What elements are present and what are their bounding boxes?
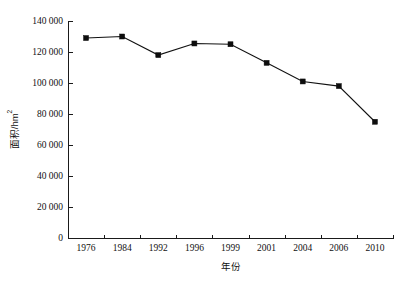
y-tick-label: 40 000 xyxy=(37,171,63,181)
data-point-marker xyxy=(192,41,197,46)
x-tick-label: 1992 xyxy=(149,243,168,253)
y-tick-label: 0 xyxy=(58,233,63,243)
x-tick-label: 2006 xyxy=(329,243,348,253)
data-point-marker xyxy=(84,36,89,41)
data-point-marker xyxy=(264,60,269,65)
y-tick-label: 100 000 xyxy=(32,78,63,88)
y-axis-title: 面积/hm2 xyxy=(6,109,21,149)
data-point-marker xyxy=(300,79,305,84)
data-series-line xyxy=(86,37,375,122)
x-tick-label: 1999 xyxy=(221,243,240,253)
data-point-markers xyxy=(84,34,378,124)
data-point-marker xyxy=(372,119,377,124)
y-axis-ticks xyxy=(69,22,73,239)
y-tick-label: 80 000 xyxy=(37,109,63,119)
y-axis-tick-labels: 020 00040 00060 00080 000100 000120 0001… xyxy=(32,16,63,243)
x-tick-label: 1976 xyxy=(77,243,96,253)
svg-text:面积/hm2: 面积/hm2 xyxy=(6,109,21,149)
y-tick-label: 140 000 xyxy=(32,16,63,26)
x-tick-label: 2004 xyxy=(293,243,312,253)
data-point-marker xyxy=(120,34,125,39)
chart-container: 020 00040 00060 00080 000100 000120 0001… xyxy=(0,0,410,292)
data-point-marker xyxy=(156,53,161,58)
y-tick-label: 20 000 xyxy=(37,202,63,212)
x-axis-title: 年份 xyxy=(221,261,241,272)
x-tick-label: 1996 xyxy=(185,243,204,253)
y-tick-label: 60 000 xyxy=(37,140,63,150)
data-point-marker xyxy=(336,84,341,89)
x-tick-label: 2010 xyxy=(365,243,384,253)
y-tick-label: 120 000 xyxy=(32,47,63,57)
x-axis-ticks xyxy=(69,235,394,239)
x-axis-tick-labels: 197619841992199619992001200420062010 xyxy=(77,243,385,253)
x-tick-label: 2001 xyxy=(257,243,276,253)
x-tick-label: 1984 xyxy=(113,243,132,253)
data-point-marker xyxy=(228,42,233,47)
line-chart: 020 00040 00060 00080 000100 000120 0001… xyxy=(0,0,410,292)
